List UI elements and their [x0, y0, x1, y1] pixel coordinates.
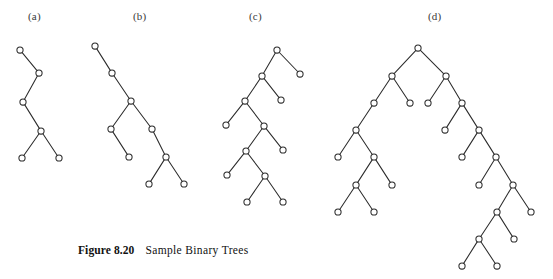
tree-edge	[247, 103, 262, 123]
tree-edge	[481, 160, 495, 183]
panel-label-d: (d)	[428, 10, 441, 22]
panel-label-a: (a)	[28, 10, 41, 22]
tree-node	[415, 45, 421, 51]
tree-node	[109, 70, 115, 76]
tree-edge	[340, 188, 355, 210]
tree-edge	[264, 78, 279, 97]
tree-edge	[25, 105, 40, 129]
tree-edge	[264, 53, 276, 74]
tree-node	[476, 127, 482, 133]
tree-edge	[151, 160, 165, 182]
tree-node	[407, 100, 413, 106]
tree-nodes-c	[223, 47, 303, 205]
tree-nodes-d	[335, 45, 534, 269]
tree-node	[371, 209, 377, 215]
tree-node	[459, 100, 465, 106]
tree-edge	[376, 160, 391, 183]
tree-node	[494, 263, 500, 269]
tree-node	[459, 154, 465, 160]
tree-edges-d	[340, 50, 530, 263]
tree-a	[17, 47, 62, 161]
tree-edge	[22, 52, 37, 70]
tree-node	[335, 154, 341, 160]
tree-node	[476, 236, 482, 242]
tree-node	[389, 73, 395, 79]
tree-node	[493, 154, 499, 160]
tree-edge	[168, 160, 183, 182]
figure-container: (a) (b) (c) (d) Figure 8.20Sample Binary…	[0, 0, 553, 279]
trees-group	[17, 43, 534, 269]
tree-node	[261, 123, 267, 129]
tree-node	[459, 263, 465, 269]
tree-edge	[481, 215, 496, 237]
tree-edge	[248, 153, 263, 173]
panel-label-c: (c)	[249, 10, 262, 22]
tree-node	[280, 199, 286, 205]
tree-edge	[228, 103, 243, 122]
tree-edge	[279, 52, 298, 72]
tree-edge	[43, 134, 58, 156]
tree-edge	[358, 160, 373, 183]
tree-node	[38, 128, 44, 134]
tree-edge	[114, 76, 130, 99]
figure-caption-text: Sample Binary Trees	[145, 244, 248, 256]
tree-d	[335, 45, 534, 269]
tree-edge	[113, 104, 129, 127]
tree-edge	[153, 132, 164, 154]
tree-node	[223, 122, 229, 128]
tree-node	[353, 182, 359, 188]
figure-caption-label: Figure 8.20	[78, 244, 134, 256]
tree-node	[280, 147, 286, 153]
tree-edge	[25, 76, 38, 100]
tree-edges-b	[97, 49, 183, 182]
tree-c	[223, 47, 303, 205]
tree-edge	[447, 106, 461, 128]
tree-node	[335, 209, 341, 215]
tree-node	[224, 172, 230, 178]
tree-node	[425, 100, 431, 106]
tree-edge	[420, 50, 444, 74]
tree-edge	[394, 79, 409, 101]
tree-node	[92, 43, 98, 49]
tree-nodes-a	[17, 47, 62, 161]
tree-node	[442, 127, 448, 133]
tree-node	[146, 181, 152, 187]
tree-edge	[97, 49, 111, 71]
tree-node	[19, 155, 25, 161]
figure-caption: Figure 8.20Sample Binary Trees	[78, 244, 249, 256]
tree-edge	[499, 188, 512, 210]
tree-node	[244, 199, 250, 205]
panel-label-b: (b)	[133, 10, 146, 22]
tree-node	[181, 181, 187, 187]
tree-edge	[267, 179, 281, 200]
tree-edge	[248, 129, 262, 149]
tree-node	[108, 126, 114, 132]
tree-node	[243, 148, 249, 154]
tree-node	[163, 154, 169, 160]
tree-b	[92, 43, 187, 187]
tree-node	[278, 97, 284, 103]
tree-node	[56, 155, 62, 161]
tree-edge	[481, 133, 495, 155]
tree-edge	[229, 153, 244, 172]
tree-edge	[498, 160, 512, 183]
tree-node	[371, 154, 377, 160]
tree-node	[17, 47, 23, 53]
tree-edge	[266, 128, 281, 147]
tree-edge	[430, 79, 445, 101]
tree-node	[371, 100, 377, 106]
tree-edge	[340, 133, 355, 155]
tree-edge	[249, 179, 263, 200]
tree-edge	[24, 134, 39, 156]
tree-node	[259, 73, 265, 79]
tree-edge	[358, 133, 373, 155]
tree-node	[274, 47, 280, 53]
tree-node	[149, 126, 155, 132]
tree-edge	[358, 188, 373, 210]
tree-edge	[247, 79, 261, 99]
tree-edge	[481, 242, 496, 264]
tree-node	[511, 236, 517, 242]
binary-trees-diagram	[0, 0, 553, 279]
tree-edge	[464, 242, 478, 264]
tree-node	[20, 99, 26, 105]
